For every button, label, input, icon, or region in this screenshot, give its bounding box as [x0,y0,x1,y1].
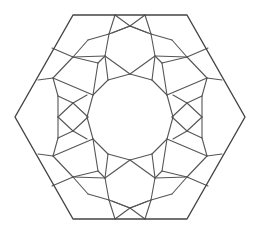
geometric-star-pattern [0,0,258,231]
background [0,0,258,231]
pattern-canvas [0,0,258,231]
